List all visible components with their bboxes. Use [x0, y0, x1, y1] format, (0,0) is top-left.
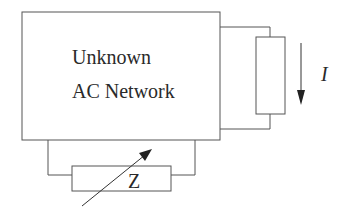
bottom-left-wire [48, 140, 72, 175]
current-label: I [320, 63, 329, 85]
network-label-line2: AC Network [72, 80, 175, 102]
impedance-label: Z [128, 170, 140, 192]
network-label-line1: Unknown [72, 46, 151, 68]
unknown-network-box [22, 12, 220, 140]
right-top-wire [220, 27, 270, 37]
circuit-diagram: Unknown AC Network I Z [0, 0, 351, 224]
load-resistor [256, 37, 285, 114]
circuit-svg: Unknown AC Network I Z [0, 0, 351, 224]
current-arrow-icon [297, 43, 305, 105]
variable-impedance-box [72, 166, 171, 191]
right-bottom-wire [220, 114, 270, 129]
bottom-right-wire [171, 140, 195, 175]
